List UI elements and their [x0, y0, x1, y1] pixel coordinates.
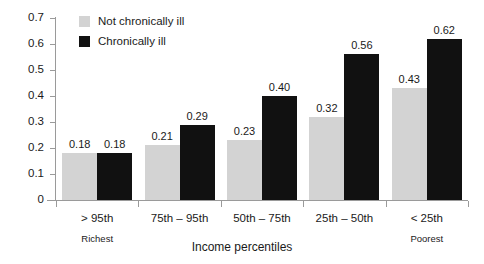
x-tick-mark: [56, 201, 57, 207]
x-tick-mark: [138, 201, 139, 207]
bar-value-label: 0.21: [142, 131, 182, 142]
legend-swatch-dark-icon: [79, 36, 90, 47]
legend-swatch-light-icon: [79, 16, 90, 27]
legend-label-chronically-ill: Chronically ill: [98, 36, 166, 48]
x-tick-mark: [221, 201, 222, 207]
y-tick-mark: [50, 200, 55, 201]
y-tick-mark: [50, 44, 55, 45]
legend-item-not-chronically-ill: Not chronically ill: [79, 13, 184, 30]
x-category-label: > 95th: [56, 212, 138, 224]
x-category-label: 75th – 95th: [138, 212, 220, 224]
legend-label-not-chronically-ill: Not chronically ill: [98, 16, 184, 28]
y-tick-mark: [50, 18, 55, 19]
y-tick-label: 0: [0, 194, 44, 206]
legend: Not chronically ill Chronically ill: [79, 13, 184, 53]
x-axis-line: [47, 200, 468, 201]
y-tick-label: 0.3: [0, 116, 44, 128]
y-tick-mark: [50, 70, 55, 71]
y-tick-mark: [50, 174, 55, 175]
bar: [180, 125, 215, 200]
y-tick-mark: [50, 148, 55, 149]
y-tick-label: 0.6: [0, 38, 44, 50]
bar: [309, 117, 344, 200]
y-tick-mark: [50, 96, 55, 97]
bar-value-label: 0.56: [342, 40, 382, 51]
bar-value-label: 0.29: [177, 111, 217, 122]
bar-value-label: 0.32: [307, 103, 347, 114]
y-tick-label: 0.1: [0, 168, 44, 180]
bar-value-label: 0.43: [389, 74, 429, 85]
x-tick-mark: [303, 201, 304, 207]
bar-value-label: 0.40: [260, 82, 300, 93]
x-category-label: < 25th: [386, 212, 468, 224]
y-tick-label: 0.2: [0, 142, 44, 154]
x-category-label: 25th – 50th: [303, 212, 385, 224]
x-tick-mark: [468, 201, 469, 207]
legend-item-chronically-ill: Chronically ill: [79, 33, 184, 50]
x-tick-mark: [386, 201, 387, 207]
bar: [97, 153, 132, 200]
y-tick-mark: [50, 122, 55, 123]
bar: [62, 153, 97, 200]
bar-chart: 00.10.20.30.40.50.60.7 0.180.180.210.290…: [0, 0, 484, 264]
x-category-label: 50th – 75th: [221, 212, 303, 224]
y-tick-label: 0.5: [0, 64, 44, 76]
bar: [145, 145, 180, 200]
bar: [227, 140, 262, 200]
bar: [262, 96, 297, 200]
bar: [392, 88, 427, 200]
x-axis-title: Income percentiles: [0, 240, 484, 254]
bar: [344, 54, 379, 200]
bar-value-label: 0.62: [424, 25, 464, 36]
bar-value-label: 0.18: [95, 139, 135, 150]
y-tick-label: 0.7: [0, 12, 44, 24]
bar-value-label: 0.23: [225, 126, 265, 137]
y-axis-line: [55, 17, 56, 201]
bar: [427, 39, 462, 200]
y-tick-label: 0.4: [0, 90, 44, 102]
bar-value-label: 0.18: [60, 139, 100, 150]
